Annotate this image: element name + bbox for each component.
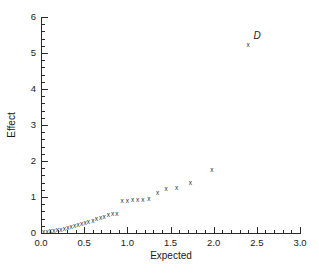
y-axis-tick-label-text: 5 [18, 48, 36, 58]
x-axis-minor-tick [110, 230, 111, 233]
y-axis-minor-tick [42, 82, 45, 83]
x-axis-minor-tick [119, 230, 120, 233]
y-axis-tick-label-text: 4 [18, 84, 36, 94]
y-axis-major-tick [42, 233, 48, 234]
data-point-marker: x [76, 222, 81, 227]
y-axis-minor-tick [42, 219, 45, 220]
y-axis-major-tick [42, 53, 48, 54]
x-axis-tick-label: 2.5 [242, 237, 272, 248]
y-axis-minor-tick [42, 60, 45, 61]
half-normal-probability-plot: 0123456 0.00.51.01.52.02.53.0 xxxxxxxxxx… [0, 0, 319, 276]
x-axis-major-tick [300, 227, 301, 233]
data-point-marker: x [209, 167, 214, 172]
y-axis-tick-label: 3 [18, 120, 36, 130]
x-axis-tick-label: 1.5 [156, 237, 186, 248]
x-axis-tick-label-text: 1.0 [112, 237, 142, 248]
x-axis-minor-tick [196, 230, 197, 233]
x-axis-tick-label-text: 0.0 [26, 237, 56, 248]
x-axis-minor-tick [205, 230, 206, 233]
y-axis-major-tick [42, 125, 48, 126]
data-point-marker: x [69, 224, 74, 229]
y-axis-minor-tick [42, 183, 45, 184]
data-point-marker: x [140, 197, 145, 202]
x-axis-major-tick [257, 227, 258, 233]
y-axis-minor-tick [42, 190, 45, 191]
y-axis-minor-tick [42, 147, 45, 148]
data-point-marker: x [146, 196, 151, 201]
data-point-marker: x [135, 197, 140, 202]
x-axis-major-tick [41, 227, 42, 233]
y-axis-tick-label: 2 [18, 156, 36, 166]
data-point-marker: x [155, 190, 160, 195]
y-axis-minor-tick [42, 211, 45, 212]
x-axis-minor-tick [93, 230, 94, 233]
y-axis-major-tick [42, 89, 48, 90]
y-axis-minor-tick [42, 154, 45, 155]
x-axis-title: Expected [41, 250, 301, 262]
x-axis-minor-tick [222, 230, 223, 233]
y-axis-minor-tick [42, 39, 45, 40]
y-axis-minor-tick [42, 75, 45, 76]
x-axis-tick-label: 2.0 [199, 237, 229, 248]
x-axis-minor-tick [162, 230, 163, 233]
x-axis-tick-label-text: 0.5 [69, 237, 99, 248]
y-axis-major-tick [42, 17, 48, 18]
y-axis-minor-tick [42, 46, 45, 47]
x-axis-minor-tick [240, 230, 241, 233]
x-axis-tick-label: 0.0 [26, 237, 56, 248]
data-point-marker: x [102, 214, 107, 219]
data-point-marker: x [86, 219, 91, 224]
y-axis-tick-label-text: 6 [18, 12, 36, 22]
y-axis-minor-tick [42, 139, 45, 140]
data-point-marker: x [79, 221, 84, 226]
x-axis-minor-tick [188, 230, 189, 233]
data-point-marker: x [72, 223, 77, 228]
data-point-marker: x [83, 220, 88, 225]
data-point-marker: x [110, 211, 115, 216]
data-point-marker: x [106, 212, 111, 217]
y-axis-major-tick [42, 197, 48, 198]
y-axis-tick-label: 1 [18, 192, 36, 202]
x-axis-minor-tick [145, 230, 146, 233]
x-axis-minor-tick [265, 230, 266, 233]
x-axis-tick-label-text: 1.5 [156, 237, 186, 248]
scatter-series: xxxxxxxxxxxxxxxxxxxxxxxxxxxxxxxxxD [0, 0, 319, 276]
x-axis-minor-tick [76, 230, 77, 233]
y-axis-tick-label-text: 1 [18, 192, 36, 202]
x-axis-tick-label: 3.0 [285, 237, 315, 248]
y-axis-tick-label: 5 [18, 48, 36, 58]
x-axis-tick-label: 1.0 [112, 237, 142, 248]
x-axis-minor-tick [248, 230, 249, 233]
y-axis-minor-tick [42, 168, 45, 169]
x-axis-tick-label-text: 2.0 [199, 237, 229, 248]
data-point-marker: x [130, 197, 135, 202]
y-axis-minor-tick [42, 111, 45, 112]
x-axis-tick-label-text: 3.0 [285, 237, 315, 248]
data-point-marker: x [125, 198, 130, 203]
data-point-marker: x [94, 216, 99, 221]
x-axis-minor-tick [136, 230, 137, 233]
y-axis-minor-tick [42, 204, 45, 205]
y-axis-minor-tick [42, 24, 45, 25]
x-axis-minor-tick [153, 230, 154, 233]
x-axis-major-tick [171, 227, 172, 233]
x-axis-minor-tick [179, 230, 180, 233]
data-point-marker: x [114, 211, 119, 216]
data-point-marker: x [246, 42, 251, 47]
x-axis-minor-tick [67, 230, 68, 233]
x-axis-major-tick [127, 227, 128, 233]
x-axis-minor-tick [58, 230, 59, 233]
x-axis-minor-tick [274, 230, 275, 233]
x-axis-minor-tick [283, 230, 284, 233]
x-axis-minor-tick [50, 230, 51, 233]
data-point-marker: x [51, 228, 56, 233]
y-axis-minor-tick [42, 96, 45, 97]
y-axis-minor-tick [42, 132, 45, 133]
y-axis-minor-tick [42, 103, 45, 104]
x-axis-tick-label-text: 2.5 [242, 237, 272, 248]
x-axis-minor-tick [231, 230, 232, 233]
y-axis-minor-tick [42, 31, 45, 32]
y-axis-tick-label: 6 [18, 12, 36, 22]
data-point-marker: x [120, 198, 125, 203]
x-axis-major-tick [214, 227, 215, 233]
